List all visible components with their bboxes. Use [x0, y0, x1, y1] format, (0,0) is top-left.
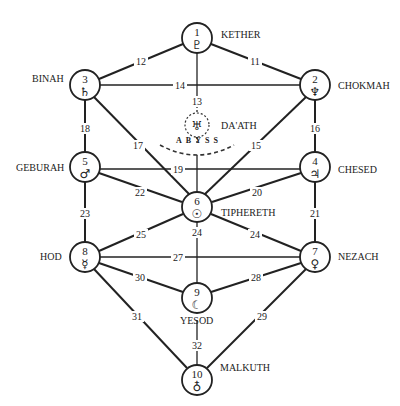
- sephira-number: 8: [82, 245, 88, 257]
- sephira-geburah[interactable]: 5 ♂ GEBURAH: [16, 152, 100, 182]
- sephira-number: 7: [312, 245, 318, 257]
- earth-icon: ♁: [193, 380, 202, 394]
- path-label-20: 20: [252, 187, 262, 198]
- sephira-malkuth[interactable]: 10 ♁ MALKUTH: [182, 362, 270, 395]
- sephira-nezach[interactable]: 7 ♀ NEZACH: [300, 242, 379, 272]
- sephira-name-nezach: NEZACH: [338, 251, 379, 262]
- path-label-26: 25: [136, 229, 146, 240]
- path-label-14: 14: [175, 80, 185, 91]
- path-label-24: 24: [250, 229, 260, 240]
- sephira-chokmah[interactable]: 2 ♆ CHOKMAH: [300, 70, 390, 100]
- sephira-name-malkuth: MALKUTH: [220, 362, 270, 373]
- path-label-30: 30: [135, 272, 145, 283]
- sephira-number: 4: [312, 155, 318, 167]
- path-label-12: 12: [136, 56, 146, 67]
- path-label-16: 16: [310, 123, 320, 134]
- path-label-22: 22: [135, 187, 145, 198]
- sephira-name-binah: BINAH: [32, 73, 64, 84]
- sephira-chesed[interactable]: 4 ♃ CHESED: [300, 152, 377, 182]
- path-label-19: 19: [173, 164, 183, 175]
- path-label-27: 27: [173, 252, 183, 263]
- sephira-number: 2: [312, 73, 318, 85]
- tree-of-life-diagram: ABYSS 12 11 14 13 18 16 17 15 19 22 20 2…: [0, 0, 400, 406]
- sephira-yesod[interactable]: 9 ☾ YESOD: [180, 283, 213, 326]
- sephira-number: 6: [194, 195, 200, 207]
- neptune-icon: ♆: [310, 85, 321, 99]
- sephira-binah[interactable]: 3 ♄ BINAH: [32, 70, 100, 100]
- mercury-icon: ☿: [81, 257, 88, 271]
- sephira-number: 5: [82, 155, 88, 167]
- jupiter-icon: ♃: [310, 167, 321, 181]
- sephira-name-hod: HOD: [40, 251, 62, 262]
- sephira-number: 3: [82, 73, 88, 85]
- path-label-25: 24: [192, 227, 202, 238]
- path-label-32: 32: [192, 340, 202, 351]
- sephira-name-kether: KETHER: [221, 29, 261, 40]
- sephira-name-geburah: GEBURAH: [16, 162, 64, 173]
- pluto-icon: ♇: [192, 38, 203, 52]
- path-label-23: 23: [80, 208, 90, 219]
- moon-icon: ☾: [192, 298, 203, 312]
- path-label-11: 11: [250, 56, 260, 67]
- sephira-name-tiphereth: TIPHERETH: [221, 207, 275, 218]
- sephira-name-chokmah: CHOKMAH: [338, 80, 390, 91]
- abyss-arc: [160, 145, 234, 155]
- sephira-daath[interactable]: ♅ DA'ATH: [185, 113, 257, 137]
- sephira-name-daath: DA'ATH: [221, 120, 257, 131]
- sephira-number: 10: [192, 368, 204, 380]
- saturn-icon: ♄: [80, 85, 91, 99]
- path-label-13: 13: [192, 96, 202, 107]
- sephira-name-yesod: YESOD: [180, 315, 213, 326]
- venus-icon: ♀: [311, 257, 320, 271]
- path-label-29: 29: [257, 311, 267, 322]
- mars-icon: ♂: [80, 167, 91, 181]
- path-label-15: 15: [251, 140, 261, 151]
- sephira-hod[interactable]: 8 ☿ HOD: [40, 242, 100, 272]
- path-label-17: 17: [133, 140, 143, 151]
- uranus-icon: ♅: [192, 119, 203, 133]
- sephira-name-chesed: CHESED: [338, 164, 377, 175]
- path-label-21: 21: [310, 208, 320, 219]
- sephira-number: 9: [194, 286, 200, 298]
- sun-icon: ☉: [192, 207, 203, 221]
- path-label-18: 18: [80, 123, 90, 134]
- sephira-number: 1: [194, 26, 200, 38]
- path-label-31: 31: [132, 311, 142, 322]
- path-label-28: 28: [251, 272, 261, 283]
